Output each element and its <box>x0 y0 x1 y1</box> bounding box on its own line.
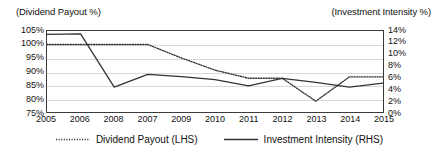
x-axis-tick-label: 2011 <box>239 115 258 124</box>
left-axis-caption: (Dividend Payout %) <box>16 6 101 17</box>
x-axis-tick-label: 2013 <box>306 115 326 124</box>
legend-item[interactable]: Dividend Payout (LHS) <box>56 134 198 145</box>
series-line <box>47 34 383 87</box>
x-axis-tick-label: 2015 <box>374 115 394 124</box>
right-axis-tick-label: 6% <box>388 73 401 82</box>
x-axis-tick-label: 2006 <box>70 115 90 124</box>
left-axis-tick-label: 90% <box>8 67 44 76</box>
left-axis-tick-label: 100% <box>8 39 44 48</box>
right-axis-tick-label: 14% <box>388 26 406 35</box>
right-axis-tick-label: 4% <box>388 85 401 94</box>
solid-line-swatch-icon <box>224 136 258 143</box>
dotted-line-swatch-icon <box>56 136 90 143</box>
right-axis-tick-label: 2% <box>388 97 401 106</box>
right-axis-tick-label: 10% <box>388 49 406 58</box>
legend-item[interactable]: Investment Intensity (RHS) <box>224 134 383 145</box>
left-axis-tick-label: 85% <box>8 81 44 90</box>
x-axis-tick-label: 2009 <box>171 115 191 124</box>
left-axis-tick-label: 95% <box>8 53 44 62</box>
series-line <box>47 45 383 102</box>
x-axis-tick-label: 2010 <box>205 115 225 124</box>
legend-label: Dividend Payout (LHS) <box>96 134 198 145</box>
x-axis-ticks: 2005200620082007200920102011201220132014… <box>46 115 384 129</box>
x-axis-tick-label: 2012 <box>273 115 293 124</box>
right-axis-caption: (Investment Intensity %) <box>332 6 432 17</box>
right-axis-ticks: 0%2%4%6%8%10%12%14% <box>388 30 434 113</box>
x-axis-tick-label: 2008 <box>104 115 124 124</box>
left-axis-ticks: 75%80%85%90%95%100%105% <box>8 30 44 113</box>
x-axis-tick-label: 2007 <box>137 115 157 124</box>
right-axis-tick-label: 8% <box>388 61 401 70</box>
chart-container: (Dividend Payout %) (Investment Intensit… <box>0 0 439 157</box>
x-axis-tick-label: 2014 <box>340 115 360 124</box>
x-axis-tick-label: 2005 <box>36 115 56 124</box>
series-layer <box>47 31 383 112</box>
legend-label: Investment Intensity (RHS) <box>264 134 383 145</box>
right-axis-tick-label: 12% <box>388 37 406 46</box>
left-axis-tick-label: 105% <box>8 26 44 35</box>
chart-legend: Dividend Payout (LHS)Investment Intensit… <box>0 134 439 145</box>
left-axis-tick-label: 80% <box>8 95 44 104</box>
plot-area <box>46 30 384 113</box>
